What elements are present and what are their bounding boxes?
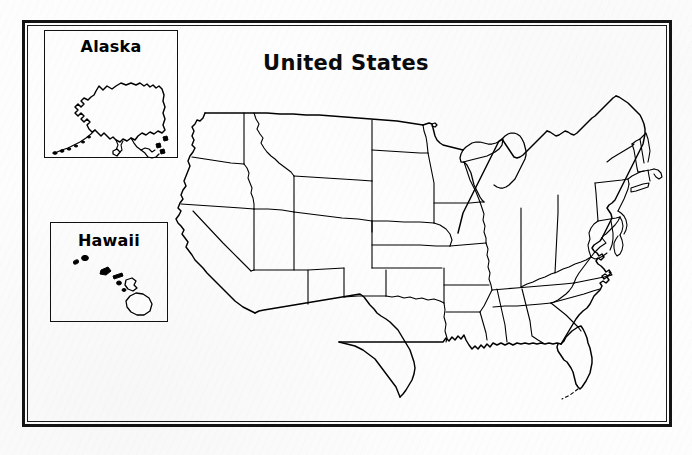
worksheet-page: United States Alaska Hawaii <box>0 0 692 455</box>
united-states-outline-map <box>0 0 692 455</box>
